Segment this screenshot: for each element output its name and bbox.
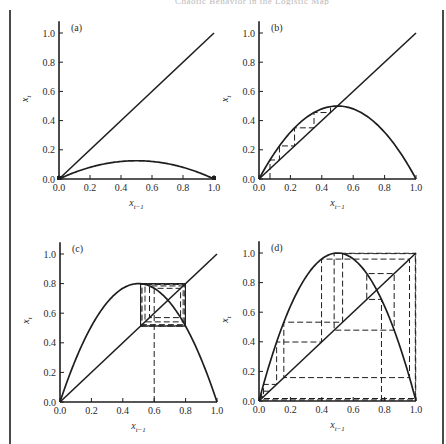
fixed-point-marker [57, 176, 61, 180]
panel-c: 0.00.20.40.60.81.00.00.20.40.60.81.0(c)x… [20, 242, 223, 434]
y-tick-label: 0.2 [243, 144, 256, 155]
logistic-map-curve [59, 161, 214, 179]
x-tick-label: 1.0 [211, 405, 224, 416]
y-tick-label: 0.0 [44, 397, 57, 408]
x-tick-label: 1.0 [410, 404, 423, 415]
x-tick-label: 0.2 [85, 405, 98, 416]
x-tick-label: 0.8 [179, 405, 192, 416]
y-tick-label: 1.0 [43, 28, 56, 39]
y-axis-title: xt [20, 316, 34, 324]
panel-label: (c) [72, 243, 83, 255]
x-tick-label: 0.2 [84, 182, 97, 193]
x-tick-label: 0.6 [347, 182, 360, 193]
x-tick-label: 0.4 [117, 405, 130, 416]
y-tick-label: 0.6 [243, 307, 256, 318]
x-axis-title: xt−1 [329, 419, 345, 433]
x-tick-label: 0.6 [148, 405, 161, 416]
panel-d: 0.00.20.40.60.81.00.00.20.40.60.81.0(d)x… [219, 241, 422, 433]
panel-label: (d) [271, 242, 283, 254]
x-axis-title: xt−1 [329, 197, 345, 211]
y-axis-title: xt [219, 94, 233, 102]
y-tick-label: 1.0 [243, 248, 256, 259]
cobweb-trajectory [141, 284, 186, 402]
x-tick-label: 1.0 [410, 182, 423, 193]
y-tick-label: 0.6 [44, 308, 57, 319]
x-tick-label: 0.4 [115, 182, 128, 193]
x-tick-label: 0.4 [316, 182, 329, 193]
y-tick-label: 0.6 [43, 86, 56, 97]
endpoint-marker [212, 176, 216, 180]
y-tick-label: 1.0 [243, 28, 256, 39]
panel-label: (a) [71, 22, 82, 34]
cobweb-trajectory [270, 106, 338, 179]
x-tick-label: 1.0 [208, 182, 221, 193]
y-tick-label: 0.4 [44, 337, 57, 348]
y-axis-title: xt [219, 315, 233, 323]
y-tick-label: 0.8 [243, 277, 256, 288]
y-tick-label: 0.8 [44, 278, 57, 289]
y-tick-label: 0.0 [43, 174, 56, 185]
x-tick-label: 0.8 [378, 404, 391, 415]
y-tick-label: 0.6 [243, 86, 256, 97]
x-tick-label: 0.4 [316, 404, 329, 415]
y-tick-label: 1.0 [44, 249, 57, 260]
x-tick-label: 0.6 [146, 182, 159, 193]
y-tick-label: 0.8 [43, 57, 56, 68]
y-tick-label: 0.4 [43, 115, 56, 126]
y-axis-title: xt [19, 94, 33, 102]
identity-line [59, 33, 214, 179]
y-tick-label: 0.4 [243, 115, 256, 126]
x-axis-title: xt−1 [130, 420, 146, 434]
x-axis-title: xt−1 [128, 197, 144, 211]
logistic-map-curve [259, 106, 416, 179]
x-tick-label: 0.2 [284, 182, 297, 193]
x-tick-label: 0.6 [347, 404, 360, 415]
x-tick-label: 0.8 [177, 182, 190, 193]
identity-line [60, 254, 217, 402]
panel-label: (b) [271, 22, 283, 34]
y-tick-label: 0.2 [43, 144, 56, 155]
x-tick-label: 0.8 [378, 182, 391, 193]
y-tick-label: 0.0 [243, 396, 256, 407]
y-tick-label: 0.2 [243, 366, 256, 377]
panel-b: 0.00.20.40.60.81.00.00.20.40.60.81.0(b)x… [219, 21, 422, 211]
y-tick-label: 0.4 [243, 336, 256, 347]
panel-a: 0.00.20.40.60.81.00.00.20.40.60.81.0(a)x… [19, 21, 220, 211]
logistic-map-figure: 0.00.20.40.60.81.00.00.20.40.60.81.0(a)x… [0, 0, 446, 444]
y-tick-label: 0.0 [243, 174, 256, 185]
y-tick-label: 0.8 [243, 57, 256, 68]
x-tick-label: 0.2 [284, 404, 297, 415]
y-tick-label: 0.2 [44, 367, 57, 378]
logistic-map-curve [60, 284, 217, 402]
